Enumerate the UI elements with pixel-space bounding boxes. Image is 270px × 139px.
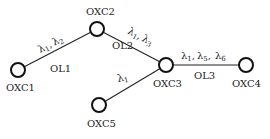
node-oxc2 bbox=[90, 22, 104, 36]
svg-text:λ1,λ5,λ6: λ1,λ5,λ6 bbox=[181, 50, 226, 63]
network-diagram: OXC1 OXC2 OXC3 OXC4 OXC5 OL1 OL2 OL3 λ1,… bbox=[0, 0, 270, 139]
label-oxc4: OXC4 bbox=[232, 78, 261, 89]
label-oxc5: OXC5 bbox=[87, 118, 116, 129]
wavelengths-ol3: λ1,λ5,λ6 bbox=[181, 50, 226, 63]
node-oxc5 bbox=[92, 98, 106, 112]
label-oxc1: OXC1 bbox=[6, 82, 35, 93]
node-oxc1 bbox=[11, 63, 25, 77]
node-oxc4 bbox=[239, 58, 253, 72]
wavelengths-oxc5-oxc3: λ1 bbox=[116, 71, 129, 86]
label-ol1: OL1 bbox=[50, 63, 71, 74]
label-oxc2: OXC2 bbox=[86, 6, 115, 17]
label-ol3: OL3 bbox=[194, 70, 215, 81]
label-ol2: OL2 bbox=[112, 40, 133, 51]
svg-text:λ1: λ1 bbox=[116, 71, 129, 86]
label-oxc3: OXC3 bbox=[153, 78, 182, 89]
node-oxc3 bbox=[159, 58, 173, 72]
